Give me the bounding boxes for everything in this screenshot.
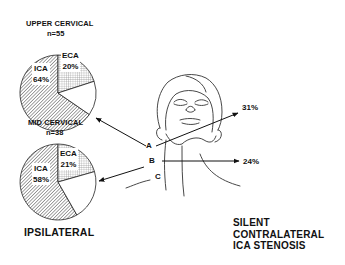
contralateral-a-value: 31%: [242, 103, 258, 112]
mid-cervical-title: MID CERVICAL: [28, 118, 83, 127]
upper-cervical-n: n=55: [47, 29, 64, 38]
contralateral-caption: SILENT CONTRALATERAL ICA STENOSIS: [233, 217, 324, 252]
arrow-a-to-31pct: [156, 113, 238, 146]
arrows: [96, 113, 239, 181]
site-label-c: C: [155, 172, 161, 181]
arrow-a-to-upper-pie: [96, 118, 146, 146]
mid-ica-label: ICA 58%: [32, 163, 50, 185]
arrow-b-to-mid-pie: [99, 167, 144, 181]
ipsilateral-label: IPSILATERAL: [24, 226, 94, 238]
upper-cervical-title: UPPER CERVICAL: [26, 19, 94, 28]
mid-cervical-n: n=38: [46, 128, 63, 137]
upper-eca-label: ECA 20%: [61, 50, 80, 72]
contralateral-b-value: 24%: [243, 157, 259, 166]
site-label-a: A: [146, 141, 152, 150]
upper-ica-label: ICA 64%: [32, 63, 50, 85]
site-label-b: B: [149, 156, 155, 165]
mid-eca-label: ECA 21%: [59, 148, 78, 170]
